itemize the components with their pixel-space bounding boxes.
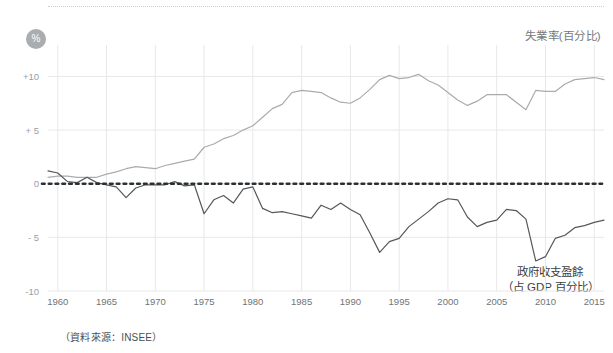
x-axis-ticks: 1960196519701975198019851990199520002005… bbox=[47, 296, 605, 307]
y-axis-tick-label: +10 bbox=[23, 71, 39, 82]
x-axis-tick-label: 1965 bbox=[96, 296, 117, 307]
y-axis-tick-label: + 5 bbox=[26, 125, 39, 136]
y-axis-tick-label: - 5 bbox=[28, 232, 39, 243]
x-axis-tick-label: 2005 bbox=[486, 296, 507, 307]
series-layer bbox=[48, 74, 604, 261]
x-axis-tick-label: 1975 bbox=[193, 296, 214, 307]
y-axis-tick-label: -10 bbox=[25, 286, 39, 297]
x-axis-tick-label: 1990 bbox=[340, 296, 361, 307]
x-axis-tick-label: 1980 bbox=[242, 296, 263, 307]
x-axis-tick-label: 2015 bbox=[584, 296, 605, 307]
x-axis-tick-label: 1960 bbox=[47, 296, 68, 307]
y-axis-tick-label: 0 bbox=[34, 178, 39, 189]
x-axis-tick-label: 1995 bbox=[389, 296, 410, 307]
series-line bbox=[48, 74, 604, 177]
x-axis-tick-label: 1970 bbox=[145, 296, 166, 307]
x-axis-tick-label: 1985 bbox=[291, 296, 312, 307]
y-axis-ticks: +10+ 50- 5-10 bbox=[23, 71, 39, 297]
chart-page: % 失業率(百分比) 政府收支盈餘 （占 GDP 百分比） （資料來源：INSE… bbox=[0, 0, 613, 353]
chart-plot: +10+ 50- 5-10 19601965197019751980198519… bbox=[0, 0, 613, 353]
x-axis-tick-label: 2000 bbox=[437, 296, 458, 307]
x-axis-tick-label: 2010 bbox=[535, 296, 556, 307]
